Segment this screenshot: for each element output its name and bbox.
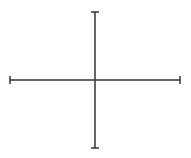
diagram-canvas — [0, 0, 191, 158]
crosshair-diagram — [0, 0, 191, 158]
